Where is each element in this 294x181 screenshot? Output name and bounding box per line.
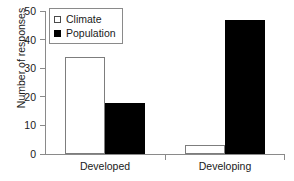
y-axis-tick-label: 20 (2, 92, 36, 103)
y-axis-tick-label: 40 (2, 35, 36, 46)
x-axis-tick (165, 155, 166, 160)
legend-label: Population (66, 28, 116, 39)
chart-legend: Climate Population (49, 8, 123, 44)
filled-square-marker-icon (54, 30, 61, 37)
bar-developed-climate (65, 57, 105, 154)
y-axis-tick-label: 0 (2, 149, 36, 160)
x-axis-tick (284, 155, 285, 160)
y-axis-tick-label: 30 (2, 63, 36, 74)
y-axis-tick-label: 50 (2, 6, 36, 17)
x-axis-group-label: Developing (165, 161, 285, 173)
y-axis-tick-label: 10 (2, 120, 36, 131)
bar-developing-population (225, 20, 265, 154)
open-square-marker-icon (54, 16, 61, 23)
x-axis-group-label: Developed (45, 161, 165, 173)
legend-label: Climate (66, 14, 102, 25)
bar-developed-population (105, 103, 145, 154)
bar-developing-climate (185, 145, 225, 154)
legend-item-climate: Climate (54, 12, 116, 26)
legend-item-population: Population (54, 26, 116, 40)
bar-chart: Number of responses 01020304050 Develope… (0, 0, 294, 181)
